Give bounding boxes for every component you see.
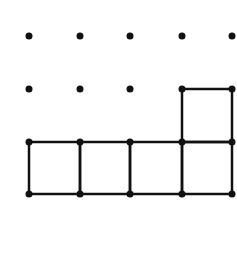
- grid-dot: [179, 33, 186, 40]
- unit-square: [80, 142, 130, 194]
- grid-dot: [127, 33, 134, 40]
- dot-grid-diagram: [0, 0, 237, 268]
- grid-dot: [26, 33, 33, 40]
- grid-dot: [26, 191, 33, 198]
- unit-square: [29, 142, 80, 194]
- grid-dot: [77, 86, 84, 93]
- grid-dot: [179, 139, 186, 146]
- grid-dot: [77, 139, 84, 146]
- grid-dot: [127, 86, 134, 93]
- grid-dot: [179, 191, 186, 198]
- grid-dot: [127, 139, 134, 146]
- grid-dot: [77, 33, 84, 40]
- grid-dot: [229, 86, 236, 93]
- grid-dot: [127, 191, 134, 198]
- grid-dot: [26, 139, 33, 146]
- grid-dot: [229, 139, 236, 146]
- unit-square: [182, 142, 232, 194]
- grid-dot: [229, 33, 236, 40]
- unit-square: [130, 142, 182, 194]
- grid-dot: [229, 191, 236, 198]
- grid-dot: [26, 86, 33, 93]
- grid-dot: [179, 86, 186, 93]
- unit-square: [182, 89, 232, 142]
- grid-dot: [77, 191, 84, 198]
